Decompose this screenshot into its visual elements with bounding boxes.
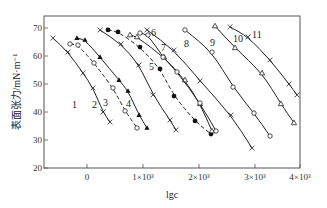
y-tick-label: 40 (33, 107, 43, 117)
y-tick-label: 20 (33, 163, 43, 173)
x-tick-label: 4×10³ (289, 172, 311, 182)
curve-label-4: 4 (126, 98, 131, 109)
y-tick-label: 60 (33, 51, 43, 61)
curve-label-5: 5 (149, 61, 154, 72)
y-axis-title: 表面张力/mN·m⁻¹ (10, 54, 22, 131)
y-tick-label: 70 (33, 23, 43, 33)
y-tick-label: 50 (33, 79, 43, 89)
surface-tension-chart: 203040506070 01×10³2×10³3×10³4×10³ 12345… (0, 0, 327, 208)
curve-label-3: 3 (103, 97, 108, 108)
curves (51, 23, 300, 150)
curve-label-9: 9 (210, 37, 215, 48)
x-tick-label: 0 (85, 172, 90, 182)
x-axis-title: lgc (166, 189, 179, 200)
curve-label-1: 1 (72, 99, 77, 110)
curve-labels: 1234567891011 (72, 27, 262, 110)
y-tick-label: 30 (33, 135, 43, 145)
x-tick-label: 3×10³ (244, 172, 266, 182)
curve-label-2: 2 (92, 99, 97, 110)
curve-2 (68, 42, 139, 130)
curve-3 (74, 35, 149, 129)
curve-label-11: 11 (252, 29, 262, 40)
curve-1 (51, 36, 113, 125)
curve-5 (106, 28, 214, 137)
x-tick-label: 2×10³ (188, 172, 210, 182)
curve-label-6: 6 (151, 27, 156, 38)
curve-label-7: 7 (161, 42, 166, 53)
x-tick-label: 1×10³ (132, 172, 154, 182)
y-axis: 203040506070 (33, 23, 48, 173)
curve-label-10: 10 (233, 33, 243, 44)
curve-label-8: 8 (184, 38, 189, 49)
x-axis: 01×10³2×10³3×10³4×10³ (85, 164, 311, 182)
